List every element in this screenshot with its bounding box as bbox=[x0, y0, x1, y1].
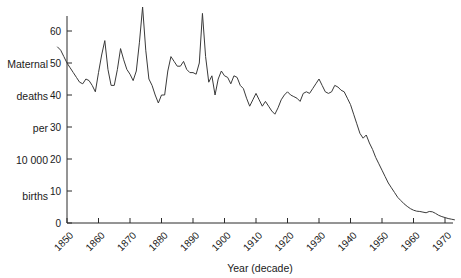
x-tick-label: 1940 bbox=[335, 229, 359, 253]
x-tick-label: 1850 bbox=[52, 229, 76, 253]
y-axis-label: Maternal deaths per 10 000 births bbox=[7, 58, 48, 202]
y-axis-ticks: 0102030405060 bbox=[50, 26, 72, 229]
x-tick-label: 1870 bbox=[115, 229, 139, 253]
x-tick-label: 1920 bbox=[272, 229, 296, 253]
y-tick-label: 30 bbox=[50, 122, 62, 133]
x-tick-label: 1970 bbox=[430, 229, 454, 253]
y-axis-label-line-4: births bbox=[22, 190, 48, 202]
x-tick-label: 1860 bbox=[83, 229, 107, 253]
x-tick-label: 1930 bbox=[304, 229, 328, 253]
x-tick-label: 1910 bbox=[241, 229, 265, 253]
y-tick-label: 10 bbox=[50, 186, 62, 197]
y-axis-label-line-0: Maternal bbox=[7, 58, 48, 70]
y-axis-label-line-3: 10 000 bbox=[16, 154, 48, 166]
y-axis-label-line-1: deaths bbox=[16, 90, 48, 102]
x-axis-title: Year (decade) bbox=[227, 262, 293, 274]
x-tick-label: 1960 bbox=[398, 229, 422, 253]
chart-container: Maternal deaths per 10 000 births 010203… bbox=[0, 0, 461, 278]
x-tick-label: 1900 bbox=[209, 229, 233, 253]
y-tick-label: 60 bbox=[50, 26, 62, 37]
y-tick-label: 0 bbox=[55, 218, 61, 229]
maternal-mortality-line-chart: Maternal deaths per 10 000 births 010203… bbox=[0, 0, 461, 278]
y-tick-label: 50 bbox=[50, 58, 62, 69]
y-tick-label: 40 bbox=[50, 90, 62, 101]
x-tick-label: 1880 bbox=[146, 229, 170, 253]
x-tick-label: 1950 bbox=[367, 229, 391, 253]
data-series-line-maternal-deaths bbox=[58, 7, 455, 220]
y-tick-label: 20 bbox=[50, 154, 62, 165]
x-tick-label: 1890 bbox=[178, 229, 202, 253]
y-axis-label-line-2: per bbox=[33, 122, 49, 134]
